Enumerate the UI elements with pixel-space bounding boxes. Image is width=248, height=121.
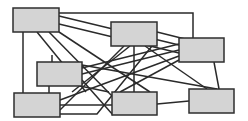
node-box-c (179, 38, 224, 62)
diagram-canvas (0, 0, 248, 121)
node-box-e (14, 93, 60, 117)
node-box-d (37, 62, 82, 86)
edge-20 (157, 101, 189, 104)
network-diagram (0, 0, 248, 121)
node-box-f (112, 92, 157, 115)
edge-16 (82, 80, 113, 115)
node-box-g (189, 89, 234, 113)
node-layer (13, 8, 234, 117)
node-box-a (13, 8, 59, 32)
edge-21 (214, 62, 219, 89)
edge-22 (120, 60, 179, 92)
node-box-b (111, 22, 157, 46)
